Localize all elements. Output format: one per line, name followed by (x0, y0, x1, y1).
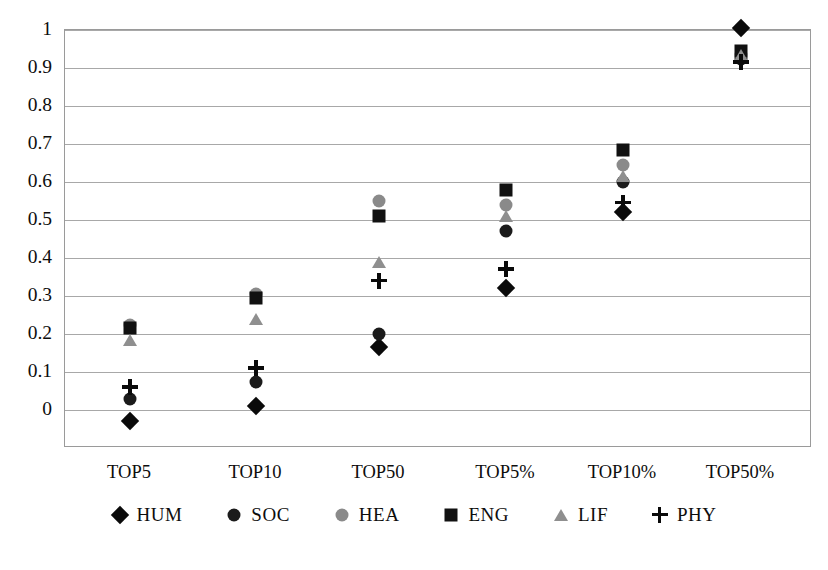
legend-item-eng[interactable]: ENG (443, 505, 509, 524)
legend-marker-plus-icon (652, 507, 668, 523)
scatter-chart: 10.90.80.70.60.50.40.30.20.10 TOP5TOP10T… (0, 0, 828, 570)
legend-marker-circle-gray-icon (334, 507, 350, 523)
x-axis-label: TOP5% (475, 462, 534, 482)
marker-circle-gray (335, 508, 348, 521)
marker-square (445, 508, 458, 521)
legend-item-lif[interactable]: LIF (553, 505, 608, 524)
legend-label: LIF (578, 505, 608, 524)
legend-marker-square-icon (443, 507, 459, 523)
marker-triangle (554, 509, 568, 521)
marker-diamond (110, 505, 128, 523)
x-axis-label: TOP5 (107, 462, 151, 482)
marker-plus (652, 507, 668, 523)
legend-label: HUM (137, 505, 183, 524)
legend-item-hum[interactable]: HUM (112, 505, 183, 524)
x-axis-tick-labels: TOP5TOP10TOP50TOP5%TOP10%TOP50% (0, 0, 828, 570)
legend-marker-diamond-icon (112, 507, 128, 523)
legend-marker-circle-dark-icon (226, 507, 242, 523)
x-axis-label: TOP50% (706, 462, 775, 482)
legend-item-hea[interactable]: HEA (334, 505, 400, 524)
legend-label: SOC (251, 505, 289, 524)
legend-item-phy[interactable]: PHY (652, 505, 717, 524)
x-axis-label: TOP10 (228, 462, 281, 482)
legend-label: ENG (468, 505, 509, 524)
x-axis-label: TOP50 (351, 462, 404, 482)
legend-marker-triangle-icon (553, 507, 569, 523)
chart-legend: HUMSOCHEAENGLIFPHY (0, 505, 828, 524)
x-axis-label: TOP10% (588, 462, 657, 482)
legend-label: PHY (677, 505, 717, 524)
legend-item-soc[interactable]: SOC (226, 505, 289, 524)
marker-circle-dark (228, 508, 241, 521)
legend-label: HEA (359, 505, 400, 524)
